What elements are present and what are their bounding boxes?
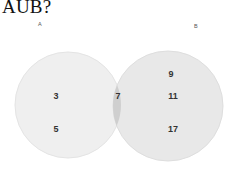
element-b-only: 11: [168, 91, 178, 101]
set-a-label: A: [38, 21, 42, 27]
set-a-circle: [15, 52, 121, 158]
set-b-circle: [113, 51, 223, 161]
venn-diagram: A B 3 5 7 9 11 17: [0, 0, 236, 169]
element-a-only: 5: [53, 124, 58, 134]
element-intersection: 7: [115, 91, 120, 101]
element-b-only: 17: [168, 124, 178, 134]
element-b-only: 9: [168, 69, 173, 79]
set-b-label: B: [194, 23, 198, 29]
element-a-only: 3: [53, 91, 58, 101]
